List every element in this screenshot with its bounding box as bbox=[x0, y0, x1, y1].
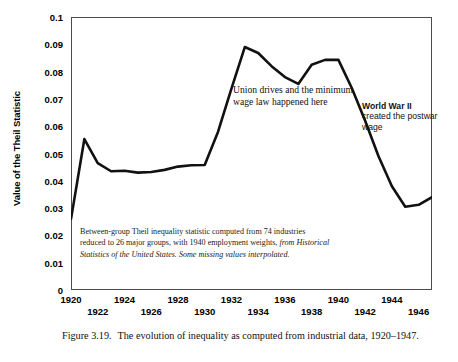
x-tick-1938: 1938 bbox=[301, 306, 322, 317]
x-tick-1930: 1930 bbox=[194, 306, 215, 317]
annotation-union-drives: Union drives and the minimum wage law ha… bbox=[233, 84, 353, 107]
x-tick-1940: 1940 bbox=[328, 294, 349, 305]
x-tick-1922: 1922 bbox=[87, 306, 108, 317]
figure-caption-text: The evolution of inequality as computed … bbox=[118, 330, 419, 341]
x-tick-1932: 1932 bbox=[221, 294, 242, 305]
annotation-wwii-title: World War II bbox=[362, 101, 442, 111]
x-axis-tick-labels: 1920192219241926192819301932193419361938… bbox=[0, 0, 458, 362]
annotation-wwii-body: created the postwar wage bbox=[362, 111, 442, 132]
x-tick-1946: 1946 bbox=[408, 306, 429, 317]
footnote-plain: Between-group Theil inequality statistic… bbox=[80, 227, 305, 247]
x-tick-1920: 1920 bbox=[60, 294, 81, 305]
x-tick-1936: 1936 bbox=[274, 294, 295, 305]
figure-caption: Figure 3.19.The evolution of inequality … bbox=[62, 330, 448, 342]
x-tick-1926: 1926 bbox=[141, 306, 162, 317]
x-tick-1934: 1934 bbox=[248, 306, 269, 317]
x-tick-1944: 1944 bbox=[381, 294, 402, 305]
figure-caption-label: Figure 3.19. bbox=[62, 330, 112, 341]
x-tick-1928: 1928 bbox=[167, 294, 188, 305]
chart-footnote: Between-group Theil inequality statistic… bbox=[80, 226, 332, 260]
x-tick-1942: 1942 bbox=[355, 306, 376, 317]
annotation-world-war-ii: World War II created the postwar wage bbox=[362, 101, 442, 132]
figure-3-19: Value of the Theil Statistic 0.10.090.08… bbox=[0, 0, 458, 362]
x-tick-1924: 1924 bbox=[114, 294, 135, 305]
